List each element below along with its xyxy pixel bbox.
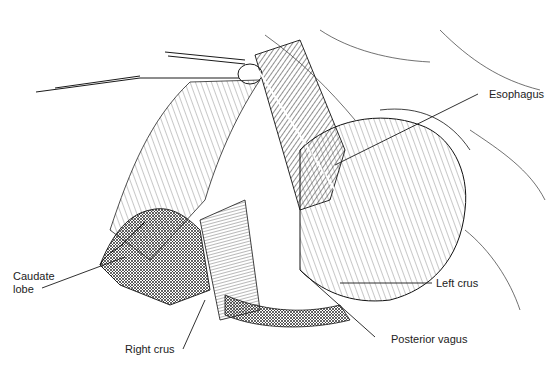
stomach: [300, 118, 466, 301]
label-right-crus: Right crus: [125, 343, 175, 356]
label-left-crus: Left crus: [436, 277, 478, 290]
label-posterior-vagus: Posterior vagus: [391, 333, 467, 346]
anatomical-illustration: [0, 0, 559, 369]
label-esophagus: Esophagus: [489, 88, 544, 101]
label-caudate-lobe-line1: Caudate: [13, 270, 55, 283]
label-caudate-lobe-line2: lobe: [13, 283, 34, 296]
